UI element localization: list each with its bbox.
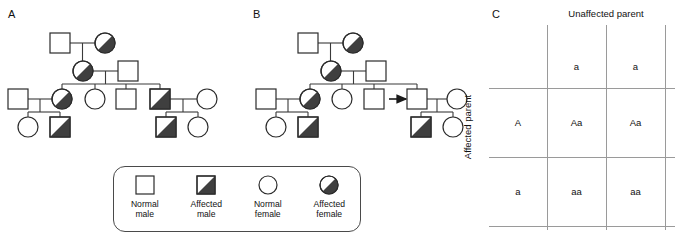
individual-normal-male — [256, 89, 276, 109]
legend-label-line1: Affected — [314, 199, 345, 209]
individual-affected-male — [50, 117, 70, 137]
individual-affected-male — [150, 89, 170, 109]
legend-label-affected-female: Affected female — [314, 199, 345, 219]
legend-label-line1: Normal — [254, 199, 282, 209]
individual-normal-male — [8, 89, 28, 109]
legend-label-line1: Normal — [131, 199, 159, 209]
normal-male-icon — [134, 174, 156, 196]
individual-affected-female — [300, 89, 320, 109]
individual-normal-female — [443, 117, 463, 137]
punnett-row-allele: a — [489, 157, 547, 226]
punnett-cell-genotype: Aa — [606, 88, 665, 157]
normal-female-icon — [257, 174, 279, 196]
legend-label-line1: Affected — [191, 199, 222, 209]
individual-normal-female — [197, 89, 217, 109]
punnett-vline-3 — [665, 25, 666, 230]
individual-affected-male — [156, 117, 176, 137]
legend-label-normal-male: Normal male — [131, 199, 159, 219]
punnett-cell-genotype: Aa — [547, 88, 606, 157]
punnett-column-header: Unaffected parent — [541, 8, 671, 19]
individual-normal-male — [366, 61, 386, 81]
legend-label-line2: male — [191, 209, 222, 219]
panel-c-label: C — [492, 8, 500, 20]
individual-normal-female — [188, 117, 208, 137]
punnett-col-allele: a — [606, 45, 665, 88]
individual-normal-male — [116, 89, 136, 109]
punnett-hline-3 — [489, 226, 675, 227]
legend-label-line2: female — [314, 209, 345, 219]
affected-male-icon — [195, 174, 217, 196]
individual-affected-female — [343, 33, 363, 53]
legend-item-affected-male: Affected male — [176, 174, 236, 219]
legend-label-normal-female: Normal female — [254, 199, 282, 219]
individual-affected-female — [73, 61, 93, 81]
individual-nonpenetrant-carrier-male — [407, 89, 427, 109]
individual-affected-male — [411, 117, 431, 137]
individual-normal-female — [18, 117, 38, 137]
punnett-cell-genotype: aa — [547, 157, 606, 226]
individual-affected-female — [52, 89, 72, 109]
pedigree-panel-a — [0, 0, 240, 160]
legend-box: Normal male Affected male — [113, 166, 361, 232]
individual-normal-male — [364, 89, 384, 109]
legend-items: Normal male Affected male — [114, 167, 360, 231]
individual-normal-male — [50, 33, 70, 53]
legend-item-affected-female: Affected female — [299, 174, 359, 219]
punnett-square: Affected parent a a A a Aa Aa aa aa — [489, 25, 675, 230]
individual-normal-female — [266, 117, 286, 137]
legend-item-normal-female: Normal female — [238, 174, 298, 219]
individual-normal-female — [85, 89, 105, 109]
legend-item-normal-male: Normal male — [115, 174, 175, 219]
legend-label-line2: male — [131, 209, 159, 219]
individual-normal-male — [298, 33, 318, 53]
affected-female-icon — [318, 174, 340, 196]
punnett-row-allele: A — [489, 88, 547, 157]
individual-affected-female — [321, 61, 341, 81]
figure-canvas: A B C — [0, 0, 679, 239]
punnett-cell-genotype: aa — [606, 157, 665, 226]
punnett-col-allele: a — [547, 45, 606, 88]
individual-affected-male — [298, 117, 318, 137]
individual-normal-male — [118, 61, 138, 81]
individual-affected-female — [95, 33, 115, 53]
legend-label-affected-male: Affected male — [191, 199, 222, 219]
punnett-row-header: Affected parent — [462, 84, 473, 170]
pedigree-a-connectors — [28, 43, 198, 117]
legend-label-line2: female — [254, 209, 282, 219]
individual-normal-female — [332, 89, 352, 109]
pedigree-panel-b — [248, 0, 493, 160]
